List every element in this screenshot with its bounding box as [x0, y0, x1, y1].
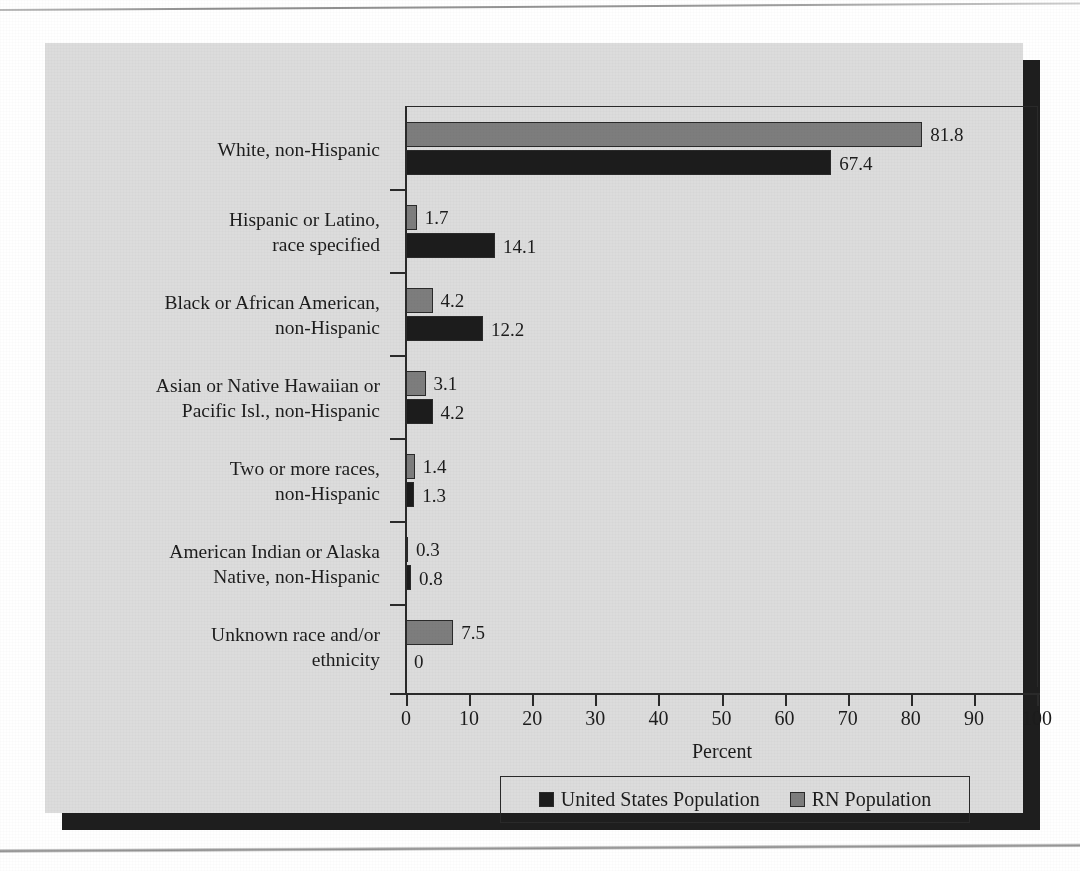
x-axis-tick: [974, 693, 976, 706]
bar-value-rn: 81.8: [930, 125, 963, 144]
legend-item-united-states-population: United States Population: [539, 788, 760, 811]
bar-value-rn: 7.5: [461, 623, 485, 642]
x-axis-tick-label: 0: [401, 707, 411, 730]
bar-rn-population: [406, 620, 453, 645]
bar-value-rn: 3.1: [434, 374, 458, 393]
bar-value-rn: 1.4: [423, 457, 447, 476]
bar-value-us: 12.2: [491, 320, 524, 339]
legend-label-rn: RN Population: [812, 788, 931, 811]
bar-us-population: [406, 399, 433, 424]
x-axis-tick-label: 80: [901, 707, 921, 730]
bar-rn-population: [406, 537, 408, 562]
x-axis-tick: [1037, 693, 1039, 706]
x-axis-tick-label: 90: [964, 707, 984, 730]
chart-legend: United States Population RN Population: [500, 776, 970, 823]
bar-value-rn: 4.2: [441, 291, 465, 310]
legend-swatch-icon-rn: [790, 792, 805, 807]
y-axis-category-label: White, non-Hispanic: [80, 136, 380, 161]
chart-category-row: Black or African American,non-Hispanic4.…: [406, 273, 1037, 356]
bar-value-rn: 1.7: [425, 208, 449, 227]
x-axis-tick-label: 70: [838, 707, 858, 730]
chart-category-row: Asian or Native Hawaiian orPacific Isl.,…: [406, 356, 1037, 439]
legend-item-rn-population: RN Population: [790, 788, 931, 811]
x-axis-tick-label: 100: [1022, 707, 1052, 730]
x-axis-tick-label: 30: [585, 707, 605, 730]
x-axis-tick-label: 40: [648, 707, 668, 730]
x-axis-tick: [469, 693, 471, 706]
x-axis-tick: [658, 693, 660, 706]
x-axis-tick: [785, 693, 787, 706]
page-rule-bottom: [0, 843, 1080, 853]
chart-category-row: Two or more races,non-Hispanic1.41.3: [406, 439, 1037, 522]
plot-area: White, non-Hispanic81.867.4Hispanic or L…: [406, 106, 1038, 687]
chart-category-row: Unknown race and/orethnicity7.50: [406, 605, 1037, 688]
y-axis-tick: [390, 521, 406, 523]
x-axis-tick: [595, 693, 597, 706]
bar-value-us: 14.1: [503, 237, 536, 256]
bar-rn-population: [406, 371, 426, 396]
x-axis-tick-label: 50: [712, 707, 732, 730]
y-axis-tick: [390, 272, 406, 274]
x-axis-tick: [722, 693, 724, 706]
bar-value-us: 0.8: [419, 569, 443, 588]
y-axis-category-label: Hispanic or Latino,race specified: [80, 207, 380, 257]
x-axis-tick: [911, 693, 913, 706]
x-axis-tick: [532, 693, 534, 706]
chart-category-row: Hispanic or Latino,race specified1.714.1: [406, 190, 1037, 273]
legend-swatch-icon-us: [539, 792, 554, 807]
bar-value-us: 4.2: [441, 403, 465, 422]
bar-value-us: 1.3: [422, 486, 446, 505]
y-axis-category-label: Asian or Native Hawaiian orPacific Isl.,…: [80, 373, 380, 423]
bar-us-population: [406, 316, 483, 341]
legend-label-us: United States Population: [561, 788, 760, 811]
x-axis-tick: [406, 693, 408, 706]
bar-rn-population: [406, 205, 417, 230]
chart-category-row: American Indian or AlaskaNative, non-His…: [406, 522, 1037, 605]
y-axis-tick: [390, 438, 406, 440]
y-axis-category-label: Unknown race and/orethnicity: [80, 622, 380, 672]
x-axis-line: [390, 693, 1040, 695]
bar-rn-population: [406, 122, 922, 147]
bar-rn-population: [406, 454, 415, 479]
bar-us-population: [406, 150, 831, 175]
bar-value-rn: 0.3: [416, 540, 440, 559]
y-axis-tick: [390, 604, 406, 606]
y-axis-tick: [390, 355, 406, 357]
bar-us-population: [406, 482, 414, 507]
bar-value-us: 67.4: [839, 154, 872, 173]
chart-category-row: White, non-Hispanic81.867.4: [406, 107, 1037, 190]
y-axis-category-label: Two or more races,non-Hispanic: [80, 456, 380, 506]
bar-rn-population: [406, 288, 433, 313]
scanned-figure-page: { "chart_data": { "type": "bar", "orient…: [0, 0, 1080, 871]
x-axis-tick: [848, 693, 850, 706]
bar-us-population: [406, 233, 495, 258]
bar-value-us: 0: [414, 652, 424, 671]
y-axis-tick: [390, 189, 406, 191]
y-axis-category-label: American Indian or AlaskaNative, non-His…: [80, 539, 380, 589]
x-axis-title: Percent: [406, 740, 1038, 763]
figure-panel: White, non-Hispanic81.867.4Hispanic or L…: [45, 43, 1023, 813]
x-axis-tick-label: 10: [459, 707, 479, 730]
x-axis-tick-label: 60: [775, 707, 795, 730]
y-axis-category-label: Black or African American,non-Hispanic: [80, 290, 380, 340]
bar-us-population: [406, 565, 411, 590]
page-rule-top: [0, 2, 1080, 11]
x-axis-tick-label: 20: [522, 707, 542, 730]
